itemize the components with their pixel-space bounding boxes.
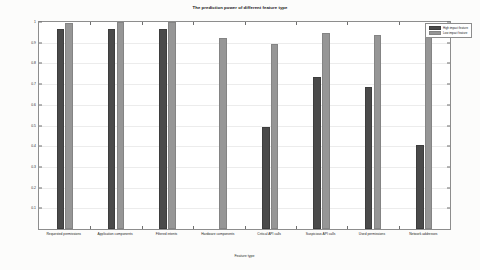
bar <box>57 29 65 229</box>
x-tick-mark <box>399 22 400 25</box>
y-tick-label: 0.9 <box>2 41 39 45</box>
y-tick-mark <box>39 84 42 85</box>
x-tick-mark <box>245 22 246 25</box>
bar <box>374 35 382 229</box>
bar <box>219 38 227 229</box>
chart-legend[interactable]: High impact feature Low impact feature <box>425 23 472 38</box>
bar <box>262 127 270 229</box>
x-category-label: Application components <box>98 232 133 236</box>
chart-figure: The prediction power of different featur… <box>0 0 480 270</box>
bar <box>117 22 125 229</box>
y-tick-label: 0.6 <box>2 103 39 107</box>
x-tick-mark <box>193 22 194 25</box>
x-tick-mark <box>90 226 91 229</box>
legend-swatch-high-impact-icon <box>429 26 441 30</box>
gridline <box>39 146 450 147</box>
bar <box>313 77 321 229</box>
y-tick-label: 0.7 <box>2 82 39 86</box>
y-tick-label: 0.4 <box>2 144 39 148</box>
bar <box>168 22 176 229</box>
x-tick-mark <box>193 226 194 229</box>
x-axis-label: Feature type <box>38 254 451 258</box>
legend-item-low-impact: Low impact feature <box>429 31 468 35</box>
y-tick-mark <box>447 166 450 167</box>
x-tick-mark <box>347 226 348 229</box>
y-tick-mark <box>39 125 42 126</box>
y-tick-mark <box>39 104 42 105</box>
bar <box>65 23 73 229</box>
x-tick-mark <box>296 22 297 25</box>
y-tick-mark <box>447 187 450 188</box>
y-tick-mark <box>39 166 42 167</box>
x-category-label: Suspicious API calls <box>306 232 336 236</box>
x-tick-mark <box>399 226 400 229</box>
y-tick-mark <box>447 104 450 105</box>
x-tick-mark <box>90 22 91 25</box>
x-tick-mark <box>347 22 348 25</box>
plot-area: Prediction power 0.10.20.30.40.50.60.70.… <box>38 21 451 230</box>
legend-swatch-low-impact-icon <box>429 31 441 35</box>
y-tick-mark <box>447 208 450 209</box>
y-tick-mark <box>447 42 450 43</box>
y-tick-mark <box>39 208 42 209</box>
bar <box>108 29 116 229</box>
y-tick-mark <box>39 63 42 64</box>
gridline <box>39 63 450 64</box>
y-tick-mark <box>39 42 42 43</box>
x-tick-mark <box>142 22 143 25</box>
x-category-label: Hardware components <box>201 232 234 236</box>
x-tick-mark <box>142 226 143 229</box>
y-tick-mark <box>39 187 42 188</box>
legend-item-high-impact: High impact feature <box>429 26 468 30</box>
y-tick-label: 1 <box>2 20 39 24</box>
y-tick-label: 0.3 <box>2 165 39 169</box>
bar <box>159 29 167 229</box>
x-tick-mark <box>296 226 297 229</box>
x-tick-mark <box>245 226 246 229</box>
y-tick-mark <box>447 125 450 126</box>
legend-label-low-impact: Low impact feature <box>443 31 467 35</box>
gridline <box>39 126 450 127</box>
y-tick-mark <box>447 63 450 64</box>
y-tick-label: 0.1 <box>2 206 39 210</box>
bar <box>416 145 424 229</box>
y-tick-mark <box>447 146 450 147</box>
x-category-label: Critical API calls <box>257 232 281 236</box>
bar <box>425 37 433 230</box>
y-tick-mark <box>447 84 450 85</box>
gridline <box>39 43 450 44</box>
x-category-label: Used permissions <box>359 232 385 236</box>
x-category-label: Filtered intents <box>156 232 178 236</box>
gridline <box>39 167 450 168</box>
y-tick-label: 0.2 <box>2 186 39 190</box>
x-category-label: Requested permissions <box>46 232 80 236</box>
y-tick-mark <box>39 22 42 23</box>
chart-title: The prediction power of different featur… <box>0 5 480 10</box>
bar <box>322 33 330 229</box>
y-tick-mark <box>39 146 42 147</box>
y-tick-label: 0.5 <box>2 124 39 128</box>
x-category-label: Network addresses <box>409 232 437 236</box>
y-tick-label: 0.8 <box>2 61 39 65</box>
legend-label-high-impact: High impact feature <box>443 26 468 30</box>
gridline <box>39 84 450 85</box>
gridline <box>39 188 450 189</box>
gridline <box>39 105 450 106</box>
bar <box>271 44 279 229</box>
gridline <box>39 208 450 209</box>
bar <box>365 87 373 229</box>
